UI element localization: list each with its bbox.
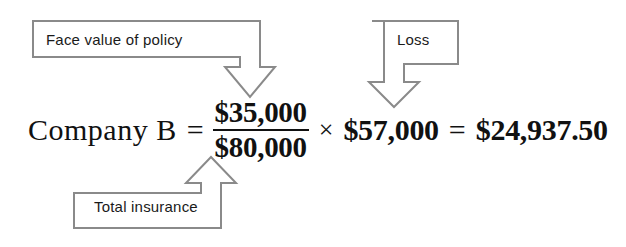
- callout-total-insurance: [73, 155, 293, 231]
- equation: Company B = $35,000 $80,000 × $57,000 = …: [28, 101, 608, 159]
- callout-total-insurance-label: Total insurance: [94, 198, 198, 215]
- equation-equals-sign-2: =: [449, 113, 466, 147]
- callout-face-value-label: Face value of policy: [46, 31, 183, 48]
- equation-loss-value: $57,000: [343, 113, 438, 147]
- equation-left-hand-side: Company B: [28, 113, 177, 147]
- equation-numerator: $35,000: [213, 97, 309, 128]
- equation-multiplication-sign: ×: [319, 115, 334, 145]
- equation-denominator: $80,000: [213, 132, 309, 163]
- equation-fraction: $35,000 $80,000: [213, 97, 309, 162]
- equation-result: $24,937.50: [476, 113, 608, 147]
- figure-canvas: Face value of policy Loss Total insuranc…: [0, 0, 626, 247]
- equation-equals-sign-1: =: [187, 113, 204, 147]
- callout-loss-label: Loss: [397, 31, 430, 48]
